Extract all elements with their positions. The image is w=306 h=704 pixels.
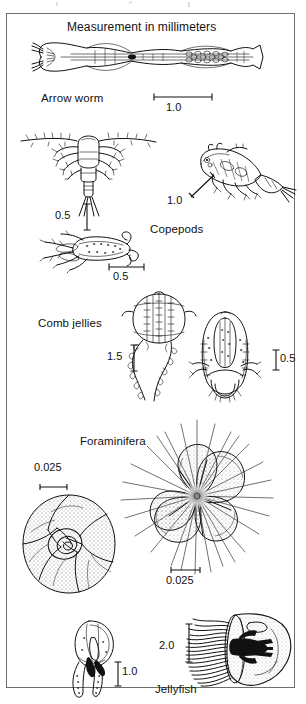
copepods-label: Copepods — [150, 224, 203, 236]
comb-jellies-label: Comb jellies — [38, 318, 102, 330]
scale-value-foraminifera-a: 0.025 — [34, 462, 62, 473]
arrow-worm-label: Arrow worm — [41, 93, 103, 105]
scale-bar-arrow-worm — [152, 92, 216, 102]
comb-jelly-lobate-specimen — [187, 310, 265, 404]
foraminifera-spinose-specimen — [117, 418, 277, 578]
scale-bar-jellyfish-large — [183, 621, 195, 665]
scale-value-copepod-a: 0.5 — [55, 210, 70, 221]
scale-value-copepod-b: 1.0 — [167, 195, 182, 206]
foraminifera-spiral-specimen — [17, 492, 121, 598]
scale-value-jellyfish-small: 1.0 — [122, 666, 137, 677]
scale-value-comb-jelly-a: 1.5 — [107, 351, 122, 362]
jellyfish-label: Jellyfish — [155, 684, 197, 696]
plate-title: Measurement in millimeters — [67, 21, 216, 33]
scale-value-jellyfish-large: 2.0 — [159, 640, 174, 651]
plankton-plate: Measurement in millimeters — [6, 13, 295, 688]
scan-artifacts — [0, 0, 306, 13]
arrow-worm-specimen — [31, 37, 269, 77]
scale-value-comb-jelly-b: 0.5 — [280, 353, 295, 364]
scale-value-arrow-worm: 1.0 — [166, 102, 181, 113]
scale-bar-comb-jelly-a — [128, 342, 140, 374]
scale-bar-foraminifera-a — [38, 482, 70, 492]
scale-value-foraminifera-b: 0.025 — [166, 575, 194, 586]
scale-bar-copepod-b — [188, 171, 218, 201]
scale-value-copepod-c: 0.5 — [113, 271, 128, 282]
jellyfish-large-specimen — [185, 609, 295, 691]
